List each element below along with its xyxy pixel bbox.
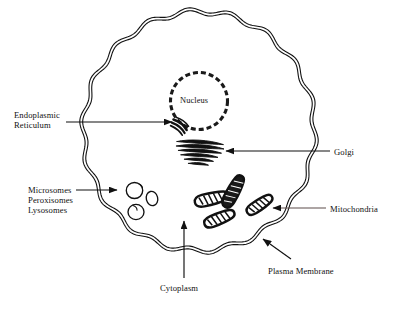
vesicles-shape xyxy=(126,183,159,220)
label-mitochondria: Mitochondria xyxy=(330,204,378,214)
golgi-shape xyxy=(177,140,225,165)
mitochondria-group xyxy=(194,173,275,230)
label-cytoplasm: Cytoplasm xyxy=(160,283,198,293)
label-plasma-membrane: Plasma Membrane xyxy=(268,266,334,276)
label-golgi: Golgi xyxy=(334,147,354,157)
mitochondrion-3 xyxy=(202,207,236,229)
mitochondrion-4 xyxy=(244,192,274,217)
label-microsomes-peroxisomes-lysosomes: Microsomes Peroxisomes Lysosomes xyxy=(28,185,73,216)
vesicle-2 xyxy=(145,190,160,207)
label-endoplasmic-reticulum: Endoplasmic Reticulum xyxy=(14,110,60,130)
cell-diagram-figure: Endoplasmic Reticulum Microsomes Peroxis… xyxy=(0,0,397,313)
plasma-membrane-leader xyxy=(263,239,291,259)
label-nucleus: Nucleus xyxy=(180,96,208,106)
